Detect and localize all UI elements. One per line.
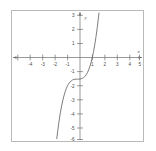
tick-label-x-neg2: -2 [53,62,58,67]
tick-label-x-neg4: -4 [28,62,33,67]
tick-label-x-3: 3 [116,62,119,67]
plot-frame: -4 -3 -2 -1 1 2 3 4 5 3 2 1 -1 -2 -3 -4 … [11,10,144,142]
x-axis-arrow-left [13,56,17,59]
tick-label-y-neg1: -1 [70,69,75,74]
tick-label-x-2: 2 [104,62,107,67]
tick-label-y-2: 2 [72,27,75,32]
y-axis-group [79,12,81,140]
x-axis-tick-labels: -4 -3 -2 -1 1 2 3 4 5 [28,62,141,67]
tick-label-y-neg4: -4 [70,112,75,117]
tick-label-x-1: 1 [91,62,94,67]
tick-label-y-3: 3 [72,13,75,18]
graph-figure: -4 -3 -2 -1 1 2 3 4 5 3 2 1 -1 -2 -3 -4 … [0,0,156,151]
tick-label-y-neg6: -6 [70,137,75,141]
tick-label-x-4: 4 [129,62,132,67]
x-axis-arrow-right [139,56,143,59]
tick-label-y-neg5: -5 [70,126,75,131]
tick-label-x-5: 5 [139,62,142,67]
tick-label-x-neg1: -1 [66,62,71,67]
y-axis-tick-labels: 3 2 1 -1 -2 -3 -4 -5 -6 [70,13,75,141]
x-axis-label: x [136,49,140,54]
tick-label-y-1: 1 [72,41,75,46]
function-curve [57,13,99,139]
x-axis-group [13,56,142,59]
y-axis-label: y [83,15,87,20]
tick-label-y-neg3: -3 [70,98,75,103]
tick-label-x-neg3: -3 [41,62,46,67]
tick-label-y-neg2: -2 [70,84,75,89]
plot-canvas: -4 -3 -2 -1 1 2 3 4 5 3 2 1 -1 -2 -3 -4 … [12,11,143,141]
